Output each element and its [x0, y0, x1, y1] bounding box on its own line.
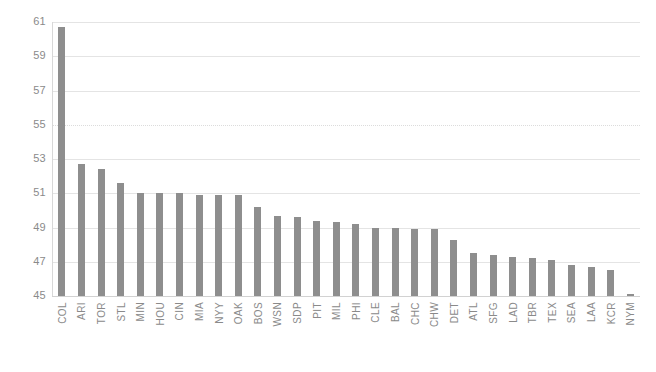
x-tick-label: BOS	[252, 302, 263, 324]
x-tick-lad: LAD	[508, 300, 518, 362]
x-tick-tor: TOR	[96, 300, 106, 362]
x-tick-label: TBR	[527, 302, 538, 323]
x-tick-oak: OAK	[233, 300, 243, 362]
bar-wsn	[274, 216, 281, 296]
x-tick-ari: ARI	[76, 300, 86, 362]
x-tick-stl: STL	[116, 300, 126, 362]
y-tick-label-61: 61	[6, 15, 46, 27]
x-tick-mia: MIA	[194, 300, 204, 362]
bar-stl	[117, 183, 124, 296]
y-tick-label-51: 51	[6, 186, 46, 198]
bar-phi	[352, 224, 359, 296]
bar-pit	[313, 221, 320, 296]
y-axis-labels: 615957555351494745	[0, 22, 46, 296]
x-tick-kcr: KCR	[606, 300, 616, 362]
bar-atl	[470, 253, 477, 296]
x-tick-pit: PIT	[312, 300, 322, 362]
bar-oak	[235, 195, 242, 296]
bar-min	[137, 193, 144, 296]
x-tick-tex: TEX	[547, 300, 557, 362]
x-tick-chw: CHW	[429, 300, 439, 362]
x-tick-label: MIN	[135, 302, 146, 322]
bar-sea	[568, 265, 575, 296]
x-tick-label: PIT	[311, 302, 322, 319]
bar-cin	[176, 193, 183, 296]
x-tick-label: TEX	[546, 302, 557, 323]
bar-tex	[548, 260, 555, 296]
x-tick-label: TOR	[96, 302, 107, 324]
bar-series	[52, 22, 640, 296]
y-tick-label-53: 53	[6, 152, 46, 164]
bar-bal	[392, 228, 399, 297]
x-tick-label: BAL	[390, 302, 401, 322]
bar-nyy	[215, 195, 222, 296]
bar-cle	[372, 228, 379, 297]
x-tick-label: MIL	[331, 302, 342, 320]
bar-chart: 615957555351494745 COLARITORSTLMINHOUCIN…	[0, 0, 656, 372]
x-tick-label: PHI	[350, 302, 361, 320]
x-tick-atl: ATL	[468, 300, 478, 362]
y-tick-label-55: 55	[6, 118, 46, 130]
x-tick-label: ARI	[76, 302, 87, 320]
x-tick-label: CIN	[174, 302, 185, 320]
x-tick-label: CLE	[370, 302, 381, 323]
x-tick-sfg: SFG	[488, 300, 498, 362]
bar-ari	[78, 164, 85, 296]
x-tick-sdp: SDP	[292, 300, 302, 362]
x-tick-label: LAA	[586, 302, 597, 322]
bar-laa	[588, 267, 595, 296]
x-tick-label: WSN	[272, 302, 283, 327]
x-tick-det: DET	[449, 300, 459, 362]
x-tick-label: SEA	[566, 302, 577, 323]
x-tick-label: ATL	[468, 302, 479, 321]
bar-tbr	[529, 258, 536, 296]
x-tick-label: CHW	[429, 302, 440, 327]
x-tick-label: HOU	[154, 302, 165, 325]
bar-chc	[411, 229, 418, 296]
bar-kcr	[607, 270, 614, 296]
y-tick-label-57: 57	[6, 84, 46, 96]
chart-title-cropped	[120, 0, 560, 11]
x-tick-label: COL	[56, 302, 67, 324]
bar-nym	[627, 294, 634, 296]
bar-tor	[98, 169, 105, 296]
x-tick-laa: LAA	[586, 300, 596, 362]
y-tick-label-45: 45	[6, 289, 46, 301]
x-axis-labels: COLARITORSTLMINHOUCINMIANYYOAKBOSWSNSDPP…	[52, 300, 640, 368]
bar-mil	[333, 222, 340, 296]
x-tick-label: LAD	[507, 302, 518, 323]
x-tick-col: COL	[57, 300, 67, 362]
x-tick-bal: BAL	[390, 300, 400, 362]
x-tick-mil: MIL	[331, 300, 341, 362]
x-tick-hou: HOU	[155, 300, 165, 362]
bar-mia	[196, 195, 203, 296]
y-tick-label-59: 59	[6, 49, 46, 61]
x-tick-label: SFG	[488, 302, 499, 324]
x-tick-label: NYY	[213, 302, 224, 324]
x-tick-sea: SEA	[566, 300, 576, 362]
bar-det	[450, 240, 457, 297]
bar-lad	[509, 257, 516, 296]
bar-sfg	[490, 255, 497, 296]
x-tick-nym: NYM	[625, 300, 635, 362]
x-tick-label: MIA	[194, 302, 205, 321]
x-tick-label: KCR	[605, 302, 616, 324]
x-tick-bos: BOS	[253, 300, 263, 362]
bar-chw	[431, 229, 438, 296]
x-tick-label: OAK	[233, 302, 244, 324]
bar-hou	[156, 193, 163, 296]
x-tick-phi: PHI	[351, 300, 361, 362]
x-tick-wsn: WSN	[272, 300, 282, 362]
y-tick-label-49: 49	[6, 221, 46, 233]
x-tick-label: CHC	[409, 302, 420, 325]
x-tick-nyy: NYY	[214, 300, 224, 362]
x-tick-label: SDP	[292, 302, 303, 324]
bar-sdp	[294, 217, 301, 296]
x-tick-cle: CLE	[370, 300, 380, 362]
y-tick-label-47: 47	[6, 255, 46, 267]
bar-bos	[254, 207, 261, 296]
x-tick-tbr: TBR	[527, 300, 537, 362]
x-tick-label: DET	[448, 302, 459, 323]
x-tick-cin: CIN	[174, 300, 184, 362]
bar-col	[58, 27, 65, 296]
